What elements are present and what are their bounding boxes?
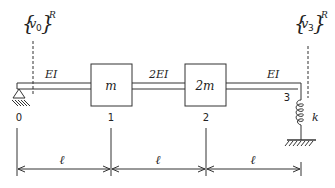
spring-label: k [312, 111, 319, 124]
right-v-superscript: R [320, 10, 328, 20]
node-label-0: 0 [16, 112, 22, 123]
left-v-superscript: R [48, 10, 56, 20]
segment-label-1-2: 2EI [148, 68, 169, 81]
node-label-3: 3 [284, 92, 290, 103]
beam-diagram: { v 0 } R { v 3 } R EI 2EI EI m 2m [0, 0, 335, 188]
pin-support-icon [12, 89, 30, 106]
dimension-label-1: ℓ [60, 153, 65, 167]
mass-label-2: 2m [194, 79, 214, 93]
node-label-1: 1 [108, 112, 114, 123]
left-displacement-label: { v 0 } R [22, 10, 56, 35]
right-displacement-label: { v 3 } R [294, 10, 328, 35]
node-label-2: 2 [203, 112, 209, 123]
beam-segment-1-2 [132, 83, 185, 89]
mass-label-1: m [105, 79, 116, 93]
segment-label-2-3: EI [266, 68, 280, 81]
dimension-label-2: ℓ [156, 153, 161, 167]
segment-label-0-1: EI [44, 68, 58, 81]
beam-segment-0-1 [17, 83, 91, 89]
dimension-label-3: ℓ [251, 153, 256, 167]
